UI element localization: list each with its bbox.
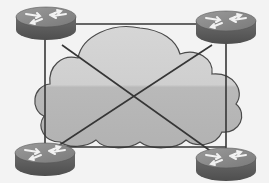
router-bottom-right[interactable]: [196, 148, 256, 181]
cloud-icon: [35, 27, 242, 148]
router-icon: [15, 143, 75, 176]
diagram-canvas: [0, 0, 269, 183]
router-icon: [196, 11, 256, 44]
router-bottom-left[interactable]: [15, 143, 75, 176]
router-icon: [196, 148, 256, 181]
network-diagram: [0, 0, 269, 183]
router-top-right[interactable]: [196, 11, 256, 44]
router-icon: [16, 7, 76, 40]
router-top-left[interactable]: [16, 7, 76, 40]
